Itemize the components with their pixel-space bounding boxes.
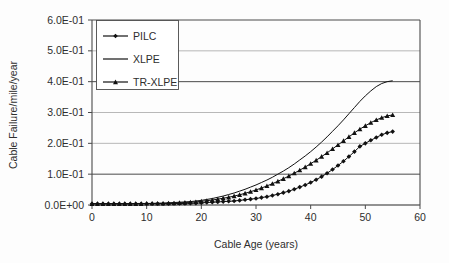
legend-label: XLPE bbox=[133, 53, 160, 65]
data-point-marker-diamond bbox=[232, 199, 237, 204]
x-tick-label: 10 bbox=[141, 211, 153, 223]
data-point-marker-diamond bbox=[319, 174, 324, 179]
data-point-marker-diamond bbox=[297, 185, 302, 190]
data-point-marker-triangle bbox=[297, 168, 302, 173]
data-point-marker-triangle bbox=[314, 158, 319, 163]
data-point-marker-diamond bbox=[259, 195, 264, 200]
data-point-marker-diamond bbox=[226, 199, 231, 204]
data-point-marker-diamond bbox=[265, 194, 270, 199]
data-point-marker-triangle bbox=[292, 171, 297, 176]
x-tick-label: 30 bbox=[250, 211, 262, 223]
data-point-marker-triangle bbox=[357, 127, 362, 132]
chart-container: 0.0E+001.0E-012.0E-013.0E-014.0E-015.0E-… bbox=[0, 0, 449, 263]
legend-label: TR-XLPE bbox=[133, 76, 177, 88]
x-axis-tick-labels: 0102030405060 bbox=[89, 211, 426, 223]
data-point-marker-diamond bbox=[369, 138, 374, 143]
data-point-marker-triangle bbox=[319, 154, 324, 159]
legend: PILCXLPETR-XLPE bbox=[97, 21, 179, 90]
data-point-marker-diamond bbox=[379, 132, 384, 137]
y-tick-label: 4.0E-01 bbox=[47, 75, 84, 87]
x-tick-label: 50 bbox=[359, 211, 371, 223]
data-point-marker-diamond bbox=[243, 197, 248, 202]
data-point-marker-triangle bbox=[270, 181, 275, 186]
data-point-marker-diamond bbox=[363, 141, 368, 146]
y-tick-label: 3.0E-01 bbox=[47, 106, 84, 118]
data-point-marker-diamond bbox=[281, 190, 286, 195]
data-point-marker-diamond bbox=[303, 183, 308, 188]
data-point-marker-diamond bbox=[390, 129, 395, 134]
series-line bbox=[92, 132, 393, 204]
data-point-marker-diamond bbox=[314, 177, 319, 182]
data-point-marker-diamond bbox=[374, 135, 379, 140]
data-point-marker-triangle bbox=[363, 123, 368, 128]
data-point-marker-triangle bbox=[281, 176, 286, 181]
data-point-marker-diamond bbox=[248, 197, 253, 202]
data-point-marker-diamond bbox=[308, 180, 313, 185]
y-tick-label: 2.0E-01 bbox=[47, 137, 84, 149]
data-point-marker-diamond bbox=[276, 192, 281, 197]
data-point-marker-diamond bbox=[385, 131, 390, 136]
data-point-marker-triangle bbox=[352, 130, 357, 135]
series-xlpe bbox=[92, 81, 393, 204]
data-point-marker-diamond bbox=[254, 196, 259, 201]
data-point-marker-triangle bbox=[303, 165, 308, 170]
data-point-marker-triangle bbox=[368, 120, 373, 125]
data-point-marker-diamond bbox=[237, 198, 242, 203]
y-tick-label: 6.0E-01 bbox=[47, 14, 84, 26]
series-tr-xlpe bbox=[90, 112, 396, 205]
y-tick-label: 1.0E-01 bbox=[47, 168, 84, 180]
series-line bbox=[92, 81, 393, 204]
y-tick-label: 5.0E-01 bbox=[47, 44, 84, 56]
legend-label: PILC bbox=[133, 30, 157, 42]
data-point-marker-diamond bbox=[287, 189, 292, 194]
y-axis-tick-labels: 0.0E+001.0E-012.0E-013.0E-014.0E-015.0E-… bbox=[45, 14, 85, 211]
data-point-marker-triangle bbox=[308, 161, 313, 166]
x-tick-label: 20 bbox=[195, 211, 207, 223]
data-point-marker-diamond bbox=[292, 187, 297, 192]
x-axis-title: Cable Age (years) bbox=[214, 238, 298, 250]
cable-failure-line-chart: 0.0E+001.0E-012.0E-013.0E-014.0E-015.0E-… bbox=[0, 0, 449, 263]
y-tick-label: 0.0E+00 bbox=[45, 199, 85, 211]
y-axis-title: Cable Failure/mile/year bbox=[7, 61, 19, 169]
data-point-marker-diamond bbox=[270, 193, 275, 198]
x-tick-label: 0 bbox=[89, 211, 95, 223]
x-tick-label: 60 bbox=[414, 211, 426, 223]
data-point-marker-triangle bbox=[275, 179, 280, 184]
x-tick-label: 40 bbox=[305, 211, 317, 223]
